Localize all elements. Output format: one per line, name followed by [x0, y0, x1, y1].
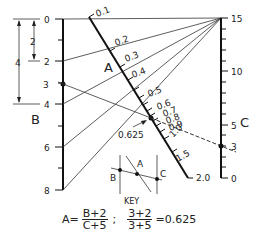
c-tick-label: 5: [231, 121, 237, 131]
b-marked-value: 3: [43, 80, 49, 90]
c-point: [219, 144, 224, 149]
nomogram-diagram: 0 2 4 6 8 3 B 2 4: [0, 0, 261, 246]
formula-den1: C+5: [83, 220, 107, 231]
b-scale: 0 2 4 6 8 3 B: [31, 15, 66, 196]
a-tick-label: 0.2: [113, 34, 130, 48]
b-tick-label: 2: [44, 57, 50, 67]
a-tick-label: 0.4: [130, 65, 147, 79]
key-label-a: A: [137, 159, 144, 169]
formula-result: =0.625: [155, 213, 196, 226]
a-tick-label: 2.0: [196, 173, 211, 183]
key-label-c: C: [160, 169, 166, 179]
a-scale-label: A: [104, 60, 113, 75]
b-tick-label: 6: [44, 143, 50, 153]
c-scale: 15 10 5 3 0 C: [219, 14, 250, 184]
c-tick-label: 3: [231, 142, 237, 152]
a-tick-label: 0.1: [94, 5, 111, 19]
key-label-b: B: [110, 173, 116, 183]
formula: A= B+2 C+5 ; 3+2 3+5 =0.625: [62, 208, 196, 231]
dimension-markers: 2 4: [13, 19, 40, 104]
formula-separator: ;: [113, 213, 117, 226]
b-scale-label: B: [31, 112, 40, 127]
dimension-large: 4: [15, 58, 21, 68]
formula-den2: 3+5: [128, 220, 151, 231]
a-tick-label: 1.5: [174, 148, 191, 164]
key-title: KEY: [124, 197, 139, 206]
a-scale: 0.1 0.2 0.3 0.4 0.5 0.6 0.7 0.8 0.9 1.0 …: [89, 5, 211, 183]
a-tick-label: 0.3: [123, 50, 140, 64]
c-tick-label: 10: [231, 67, 243, 77]
a-result-value: 0.625: [118, 130, 144, 140]
b-tick-label: 0: [44, 15, 50, 25]
formula-fraction-general: B+2 C+5: [82, 208, 108, 231]
b-tick-label: 8: [44, 186, 50, 196]
key-diagram: B A C KEY: [110, 155, 166, 206]
b-tick-label: 4: [44, 100, 50, 110]
c-tick-label: 15: [231, 14, 242, 24]
formula-lhs: A=: [62, 213, 79, 226]
formula-fraction-example: 3+2 3+5: [127, 208, 152, 231]
c-tick-label: 0: [231, 174, 237, 184]
dimension-small: 2: [30, 37, 36, 47]
c-scale-label: C: [240, 115, 249, 130]
a-tick-label: 0.5: [146, 85, 163, 99]
